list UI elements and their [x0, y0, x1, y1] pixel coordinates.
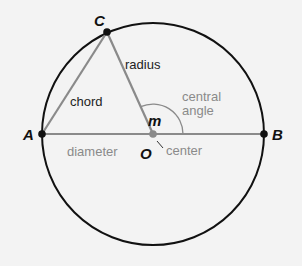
label-point-c: C	[94, 12, 106, 29]
label-center: center	[166, 143, 203, 158]
label-chord: chord	[70, 94, 103, 109]
label-angle-measure: m	[148, 112, 161, 129]
point-c-marker	[103, 28, 111, 36]
point-b-marker	[260, 130, 268, 138]
label-point-b: B	[272, 126, 283, 143]
label-central-angle-line1: central	[182, 89, 221, 104]
point-a-marker	[38, 130, 46, 138]
label-central-angle-line2: angle	[182, 103, 214, 118]
label-point-o: O	[140, 145, 152, 162]
label-radius: radius	[125, 57, 161, 72]
point-o-marker	[149, 130, 157, 138]
circle-diagram: A B C O chord radius diameter center cen…	[0, 0, 308, 272]
radius-line	[107, 32, 153, 134]
chord-line	[42, 32, 107, 134]
label-diameter: diameter	[67, 144, 118, 159]
label-point-a: A	[22, 126, 34, 143]
center-pointer	[157, 141, 163, 148]
